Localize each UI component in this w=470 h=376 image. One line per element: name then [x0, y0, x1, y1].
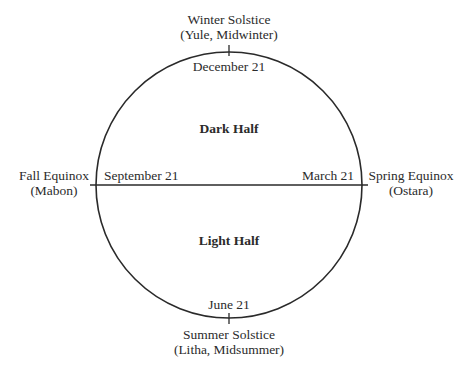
summer-solstice-label: Summer Solstice (Litha, Midsummer) — [174, 327, 284, 357]
september-21-date: September 21 — [104, 168, 179, 183]
december-21-date: December 21 — [193, 59, 265, 74]
march-21-date: March 21 — [302, 168, 354, 183]
spring-equinox-name: Spring Equinox — [367, 168, 455, 183]
light-half-label: Light Half — [199, 233, 259, 248]
summer-solstice-aliases: (Litha, Midsummer) — [174, 342, 284, 357]
winter-solstice-aliases: (Yule, Midwinter) — [180, 27, 277, 42]
summer-solstice-name: Summer Solstice — [174, 327, 284, 342]
spring-equinox-label: Spring Equinox (Ostara) — [367, 168, 455, 198]
winter-solstice-name: Winter Solstice — [180, 12, 277, 27]
fall-equinox-label: Fall Equinox (Mabon) — [18, 168, 90, 198]
fall-equinox-aliases: (Mabon) — [18, 183, 90, 198]
june-21-date: June 21 — [208, 297, 250, 312]
fall-equinox-name: Fall Equinox — [18, 168, 90, 183]
dark-half-label: Dark Half — [200, 121, 259, 136]
spring-equinox-aliases: (Ostara) — [367, 183, 455, 198]
winter-solstice-label: Winter Solstice (Yule, Midwinter) — [180, 12, 277, 42]
